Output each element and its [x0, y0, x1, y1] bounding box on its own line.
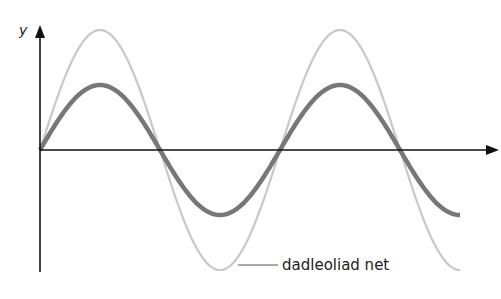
resultant-wave-annotation: dadleoliad net — [282, 256, 389, 274]
wave-diagram — [0, 0, 501, 299]
y-axis-label: y — [19, 22, 27, 38]
y-axis-arrow-icon — [35, 25, 45, 38]
x-axis-arrow-icon — [486, 145, 499, 155]
